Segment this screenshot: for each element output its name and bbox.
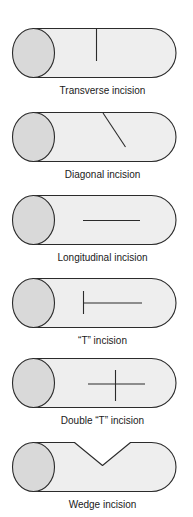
cylinder-end-face [13,279,55,328]
incision-row-transverse: Transverse incision [0,27,193,97]
cylinder-end-face [13,359,55,408]
cylinder-graphic-diagonal [0,111,193,164]
incision-label: Diagonal incision [0,169,193,181]
incision-label: Double “T” incision [0,415,193,427]
incision-label: Longitudinal incision [0,252,193,264]
incision-row-diagonal: Diagonal incision [0,111,193,181]
cylinder-graphic-transverse [0,27,193,80]
incision-row-t: “T” incision [0,277,193,347]
cylinder-end-face [13,196,55,245]
cylinder-end-face [13,443,55,492]
incision-label: Wedge incision [0,499,193,511]
cylinder-graphic-longitudinal [0,194,193,247]
cylinder-end-face [13,29,55,78]
incision-label: Transverse incision [0,85,193,97]
incision-diagram: Transverse incision Diagonal incision Lo… [0,0,193,517]
cylinder-end-face [13,113,55,162]
cylinder-graphic-double-t [0,357,193,410]
cylinder-graphic-t [0,277,193,330]
cylinder-graphic-wedge [0,441,193,494]
incision-label: “T” incision [0,335,193,347]
incision-row-wedge: Wedge incision [0,441,193,511]
incision-row-longitudinal: Longitudinal incision [0,194,193,264]
incision-row-double-t: Double “T” incision [0,357,193,427]
